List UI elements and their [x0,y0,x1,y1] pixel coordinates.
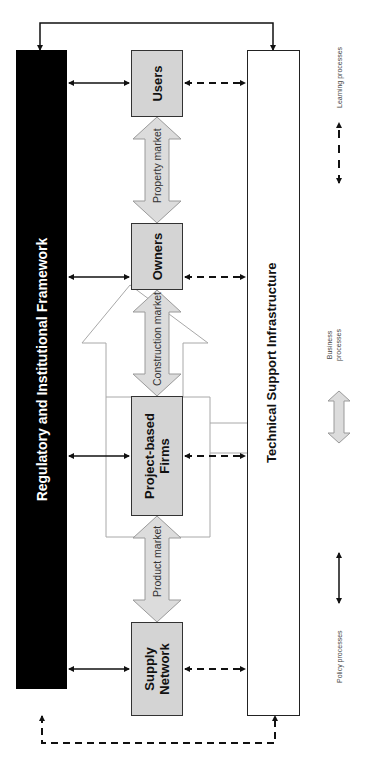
learning-arrows [185,83,245,669]
policy-feedback-loop [40,23,273,50]
legend-business-label: Business processes [325,323,343,367]
actor-owners: Owners [131,223,183,290]
technical-support-label: Technical Support Infrastructure [264,262,279,463]
property-market-label: Property market [151,128,163,203]
policy-arrows [69,83,129,669]
regulatory-framework-bar: Regulatory and Institutional Framework [16,50,67,689]
actor-users: Users [131,50,183,117]
construction-market-label: Construction market [151,292,163,386]
diagram-canvas: Regulatory and Institutional Framework T… [0,0,371,763]
business-legend-arrow-icon [328,391,350,443]
legend-learning-label: Learning processes [335,47,344,108]
product-market-label: Product market [151,526,163,597]
actor-project-based-firms: Project-based Firms [131,396,183,516]
regulatory-framework-label: Regulatory and Institutional Framework [34,238,50,502]
learning-feedback-loop [42,716,275,743]
legend-policy-label: Policy processes [335,630,344,683]
actor-supply-network: Supply Network [131,622,183,716]
